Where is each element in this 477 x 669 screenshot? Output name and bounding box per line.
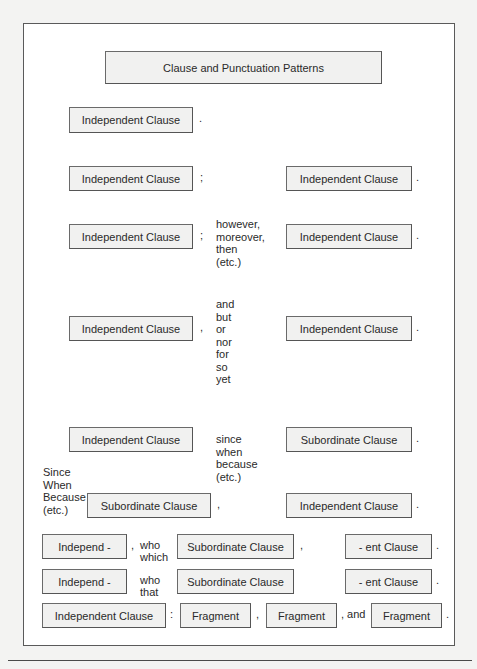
connective-word: moreover,: [216, 231, 265, 244]
fragment-box: Fragment: [371, 603, 442, 628]
connective-word: nor: [216, 336, 234, 349]
relative-pronouns-list: who that: [140, 574, 160, 598]
diagram-title: Clause and Punctuation Patterns: [105, 51, 382, 84]
connective-word: that: [140, 586, 160, 598]
period: .: [436, 574, 439, 587]
bottom-rule: [8, 660, 472, 661]
period: .: [436, 539, 439, 552]
semicolon: ;: [200, 171, 203, 184]
independent-clause-part2-box: - ent Clause: [345, 534, 432, 559]
independent-clause-box: Independent Clause: [69, 316, 193, 341]
comma: ,: [217, 498, 220, 511]
period: .: [416, 229, 419, 242]
connective-word: Since: [43, 466, 86, 479]
connective-word: when: [216, 446, 258, 459]
period: .: [199, 112, 202, 125]
comma: ,: [256, 608, 259, 621]
coordinating-conjunctions-list: and but or nor for so yet: [216, 298, 234, 386]
connective-word: so: [216, 361, 234, 374]
independent-clause-box: Independent Clause: [69, 166, 193, 191]
connective-word: yet: [216, 373, 234, 386]
connective-word: Because: [43, 491, 86, 504]
semicolon: ;: [200, 229, 203, 242]
comma-and: , and: [341, 608, 365, 621]
period: .: [416, 171, 419, 184]
connective-word: then: [216, 243, 265, 256]
comma: ,: [131, 539, 134, 552]
independent-clause-box: Independent Clause: [286, 166, 412, 191]
period: .: [446, 608, 449, 621]
period: .: [416, 321, 419, 334]
subordinate-clause-box: Subordinate Clause: [177, 534, 294, 559]
independent-clause-box: Independent Clause: [286, 224, 412, 249]
independent-clause-box: Independent Clause: [69, 224, 193, 249]
comma: ,: [300, 539, 303, 552]
connective-word: however,: [216, 218, 265, 231]
fragment-box: Fragment: [180, 603, 251, 628]
conjunctive-adverbs-list: however, moreover, then (etc.): [216, 218, 265, 268]
connective-word: (etc.): [43, 504, 86, 517]
independent-clause-box: Independent Clause: [69, 107, 193, 133]
independent-clause-part1-box: Independ -: [42, 534, 127, 559]
independent-clause-box: Independent Clause: [286, 316, 412, 341]
relative-pronouns-list: who which: [140, 539, 168, 563]
connective-word: but: [216, 311, 234, 324]
period: .: [416, 432, 419, 445]
independent-clause-box: Independent Clause: [286, 493, 412, 518]
connective-word: and: [216, 298, 234, 311]
connective-word: who: [140, 574, 160, 586]
independent-clause-part1-box: Independ -: [42, 569, 127, 594]
subordinate-clause-box: Subordinate Clause: [177, 569, 294, 594]
independent-clause-part2-box: - ent Clause: [345, 569, 432, 594]
period: .: [416, 498, 419, 511]
connective-word: or: [216, 323, 234, 336]
connective-word: because: [216, 458, 258, 471]
subordinate-clause-box: Subordinate Clause: [286, 427, 412, 452]
independent-clause-box: Independent Clause: [69, 427, 193, 452]
independent-clause-box: Independent Clause: [42, 603, 166, 628]
connective-word: who: [140, 539, 168, 551]
comma: ,: [200, 321, 203, 334]
connective-word: (etc.): [216, 256, 265, 269]
connective-word: When: [43, 479, 86, 492]
leading-subordinators-list: Since When Because (etc.): [43, 466, 86, 516]
colon: :: [170, 608, 173, 621]
subordinate-clause-box: Subordinate Clause: [87, 493, 211, 518]
subordinating-conjunctions-list: since when because (etc.): [216, 433, 258, 483]
connective-word: since: [216, 433, 258, 446]
fragment-box: Fragment: [266, 603, 337, 628]
connective-word: (etc.): [216, 471, 258, 484]
connective-word: for: [216, 348, 234, 361]
connective-word: which: [140, 551, 168, 563]
